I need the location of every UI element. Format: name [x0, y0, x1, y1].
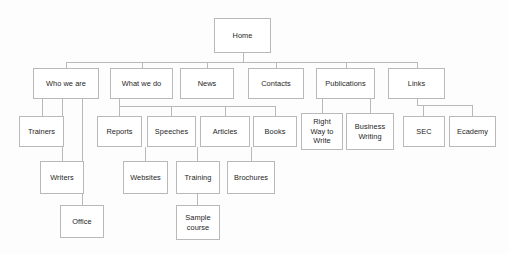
node-what-we-do[interactable]: What we do — [110, 68, 173, 99]
node-reports[interactable]: Reports — [97, 116, 142, 147]
node-writers[interactable]: Writers — [40, 161, 84, 194]
node-contacts[interactable]: Contacts — [248, 68, 304, 99]
sitemap-diagram: HomeWho we areWhat we doNewsContactsPubl… — [0, 0, 509, 254]
node-news[interactable]: News — [180, 68, 234, 99]
node-publications[interactable]: Publications — [316, 68, 375, 99]
node-brochures[interactable]: Brochures — [227, 161, 275, 194]
node-sample-course[interactable]: Sample course — [176, 205, 220, 240]
node-business-writing[interactable]: Business Writing — [346, 113, 394, 150]
node-links[interactable]: Links — [388, 68, 445, 99]
node-speeches[interactable]: Speeches — [147, 116, 196, 147]
node-right-way-to-write[interactable]: Right Way to Write — [301, 113, 343, 150]
node-websites[interactable]: Websites — [123, 161, 168, 194]
node-office[interactable]: Office — [60, 205, 104, 238]
node-articles[interactable]: Articles — [200, 116, 250, 147]
node-ecademy[interactable]: Ecademy — [449, 116, 496, 147]
node-training[interactable]: Training — [176, 161, 220, 194]
node-home[interactable]: Home — [214, 18, 271, 53]
node-who-we-are[interactable]: Who we are — [33, 68, 99, 99]
node-trainers[interactable]: Trainers — [19, 116, 64, 147]
node-books[interactable]: Books — [253, 116, 297, 147]
node-sec[interactable]: SEC — [403, 116, 445, 147]
